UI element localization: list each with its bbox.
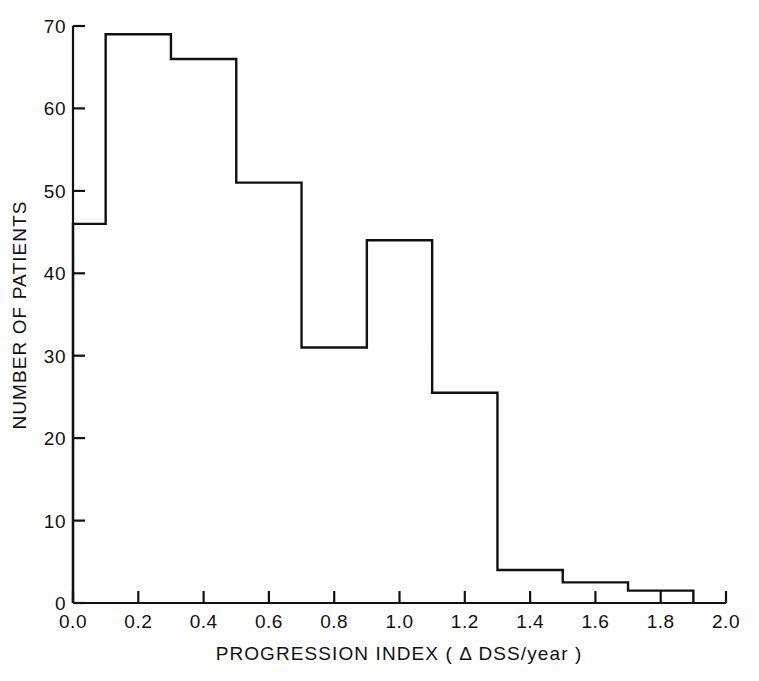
x-tick-label-1.6: 1.6 xyxy=(581,611,609,632)
x-tick-label-0.0: 0.0 xyxy=(59,611,87,632)
x-tick-label-2.0: 2.0 xyxy=(712,611,740,632)
y-tick-label-30: 30 xyxy=(44,346,66,367)
histogram-figure: 0 10 20 30 40 50 60 70 0.0 0.2 xyxy=(0,0,759,681)
y-tick-label-10: 10 xyxy=(44,511,66,532)
y-tick-label-40: 40 xyxy=(44,263,66,284)
y-tick-label-50: 50 xyxy=(44,181,66,202)
chart-svg: 0 10 20 30 40 50 60 70 0.0 0.2 xyxy=(0,0,759,681)
x-tick-label-0.6: 0.6 xyxy=(255,611,283,632)
page-caption xyxy=(0,665,759,681)
x-tick-label-1.4: 1.4 xyxy=(516,611,544,632)
x-tick-label-1.8: 1.8 xyxy=(647,611,675,632)
chart-background xyxy=(0,0,759,681)
x-tick-label-1.2: 1.2 xyxy=(451,611,479,632)
y-tick-label-20: 20 xyxy=(44,428,66,449)
x-tick-label-1.0: 1.0 xyxy=(386,611,414,632)
y-tick-label-70: 70 xyxy=(44,16,66,37)
x-tick-label-0.2: 0.2 xyxy=(124,611,152,632)
y-axis-title: NUMBER OF PATIENTS xyxy=(9,200,30,429)
y-tick-label-60: 60 xyxy=(44,98,66,119)
x-tick-label-0.8: 0.8 xyxy=(320,611,348,632)
x-tick-label-0.4: 0.4 xyxy=(190,611,218,632)
x-axis-title: PROGRESSION INDEX ( Δ DSS/year ) xyxy=(216,643,583,664)
